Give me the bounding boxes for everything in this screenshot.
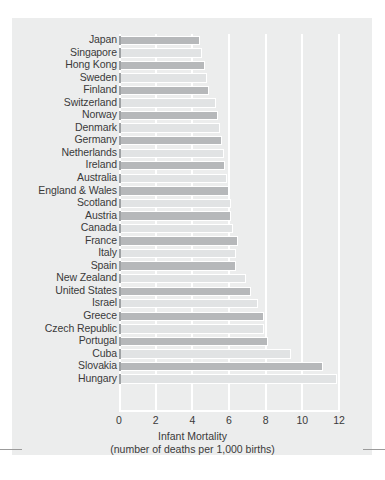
bar [119, 73, 207, 82]
bar-track [119, 324, 264, 333]
category-label: Cuba [92, 347, 117, 360]
bar-row: Cuba [0, 348, 385, 361]
bar-track [119, 312, 264, 321]
bar-origin-cap [119, 374, 121, 383]
bar-row: Canada [0, 222, 385, 235]
bar-track [119, 36, 200, 45]
bar [119, 48, 202, 57]
category-label: Sweden [80, 71, 117, 84]
bar-track [119, 161, 225, 170]
bar [119, 324, 264, 333]
bar-track [119, 86, 209, 95]
category-label: Israel [92, 296, 117, 309]
bar-row: Hungary [0, 373, 385, 386]
bar-track [119, 362, 323, 371]
category-label: Germany [75, 133, 117, 146]
bar-track [119, 249, 236, 258]
bar-track [119, 224, 233, 233]
bar-origin-cap [119, 149, 121, 158]
bar [119, 199, 231, 208]
bar-row: Slovakia [0, 360, 385, 373]
bar [119, 312, 264, 321]
bar-origin-cap [119, 337, 121, 346]
bar-track [119, 48, 202, 57]
bar-track [119, 136, 222, 145]
bar-row: Hong Kong [0, 59, 385, 72]
bar [119, 86, 209, 95]
bar [119, 123, 220, 132]
bar-origin-cap [119, 36, 121, 45]
category-label: Portugal [79, 334, 117, 347]
category-label: Italy [98, 246, 117, 259]
category-label: Finland [83, 83, 117, 96]
bar [119, 224, 233, 233]
bar-origin-cap [119, 186, 121, 195]
bar-row: Finland [0, 84, 385, 97]
bar-origin-cap [119, 287, 121, 296]
bar-origin-cap [119, 98, 121, 107]
x-axis-tick-labels: 024681012 [0, 414, 385, 430]
category-label: Greece [83, 309, 117, 322]
x-tick-label: 0 [116, 414, 122, 426]
category-label: Spain [91, 259, 117, 272]
category-label: Ireland [86, 158, 117, 171]
bar [119, 374, 337, 383]
x-tick-label: 2 [153, 414, 159, 426]
bar [119, 349, 291, 358]
bar-track [119, 149, 224, 158]
x-tick-label: 6 [226, 414, 232, 426]
bar-origin-cap [119, 224, 121, 233]
bar-row: Denmark [0, 122, 385, 135]
bar [119, 111, 218, 120]
bar-row: Japan [0, 34, 385, 47]
category-label: Denmark [75, 121, 117, 134]
bar [119, 98, 216, 107]
bar-origin-cap [119, 73, 121, 82]
category-label: Netherlands [61, 146, 117, 159]
bar-row: Ireland [0, 159, 385, 172]
category-label: Hungary [78, 372, 117, 385]
x-axis-subtitle: (number of deaths per 1,000 births) [0, 443, 385, 455]
x-tick-label: 12 [333, 414, 345, 426]
bar [119, 149, 224, 158]
bar-track [119, 174, 227, 183]
category-label: Norway [82, 108, 117, 121]
bar [119, 161, 225, 170]
category-label: Singapore [70, 46, 117, 59]
bar-row: Italy [0, 247, 385, 260]
bar-origin-cap [119, 261, 121, 270]
bar-track [119, 299, 258, 308]
bar-track [119, 123, 220, 132]
infant-mortality-bar-chart: JapanSingaporeHong KongSwedenFinlandSwit… [0, 0, 385, 480]
bar [119, 287, 251, 296]
bar-row: Germany [0, 134, 385, 147]
category-label: Switzerland [64, 96, 117, 109]
category-label: France [85, 234, 117, 247]
bar-track [119, 374, 337, 383]
bar-row: Portugal [0, 335, 385, 348]
bar-row: Singapore [0, 47, 385, 60]
bar-track [119, 98, 216, 107]
bar-origin-cap [119, 86, 121, 95]
bar-track [119, 236, 238, 245]
bar [119, 362, 323, 371]
category-label: Australia [77, 171, 117, 184]
bar-track [119, 211, 231, 220]
bar [119, 337, 268, 346]
bar-origin-cap [119, 349, 121, 358]
bar-origin-cap [119, 174, 121, 183]
bar-row: France [0, 235, 385, 248]
bar-origin-cap [119, 211, 121, 220]
bar-track [119, 274, 246, 283]
bar [119, 136, 222, 145]
bar-row: Israel [0, 297, 385, 310]
bar-origin-cap [119, 299, 121, 308]
bar [119, 36, 200, 45]
category-label: United States [55, 284, 117, 297]
bar-origin-cap [119, 249, 121, 258]
x-axis-title: Infant Mortality [0, 430, 385, 442]
category-label: Hong Kong [65, 58, 117, 71]
bar [119, 236, 238, 245]
bar-row: Scotland [0, 197, 385, 210]
bar-track [119, 199, 231, 208]
